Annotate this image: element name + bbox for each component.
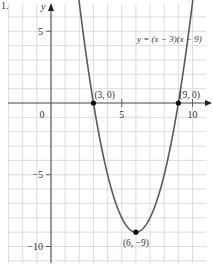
x-tick-label: 10 [188,109,198,120]
equation-label: y = (x − 3)(x − 9) [136,34,202,44]
point-marker [133,230,138,235]
y-tick-label: −10 [27,241,43,252]
parabola-figure: 05105−5−10 (3, 0)(9, 0)(6, −9) 1. y = (x… [0,0,213,267]
point-label: (3, 0) [94,90,115,101]
x-axis-arrow-icon [205,100,212,106]
y-axis-label: y [40,1,46,12]
y-tick-label: −5 [32,169,43,180]
y-axis-arrow-icon [48,3,54,11]
point-marker [91,100,96,105]
point-label: (6, −9) [123,238,149,249]
figure-number-label: 1. [1,0,9,11]
plot-area: 05105−5−10 (3, 0)(9, 0)(6, −9) 1. y = (x… [0,0,213,267]
point-marker [176,100,181,105]
y-tick-label: 5 [38,26,43,37]
point-label: (9, 0) [179,90,200,101]
x-tick-label: 0 [40,109,45,120]
x-tick-label: 5 [119,109,124,120]
